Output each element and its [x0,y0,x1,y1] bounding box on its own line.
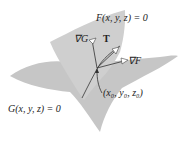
intersecting-surfaces-diagram: F(x, y, z) = 0 G(x, y, z) = 0 ∇G T ∇F (x… [0,0,181,145]
surfaces-graphic [0,0,181,145]
surface-g-label: G(x, y, z) = 0 [8,104,61,114]
surface-f-label: F(x, y, z) = 0 [96,13,148,23]
grad-g-label: ∇G [74,34,88,44]
grad-f-label: ∇F [128,56,141,66]
point-label: (x₀, y₀, z₀) [103,88,143,98]
tangent-label: T [103,34,110,44]
